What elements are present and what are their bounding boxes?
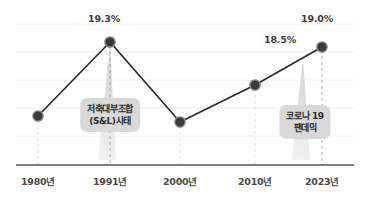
x-tick-2023: 2023년 <box>305 177 339 187</box>
data-point-1980[interactable] <box>33 111 43 121</box>
value-label-18-5: 18.5% <box>264 35 296 45</box>
data-point-1991[interactable] <box>105 37 115 47</box>
value-label-1991: 19.3% <box>88 14 120 24</box>
annotation-snl-line1: 저축대부조합 <box>87 104 133 114</box>
data-point-2000[interactable] <box>175 117 185 127</box>
annotation-covid-line2: 팬데믹 <box>294 123 317 133</box>
data-point-2010[interactable] <box>250 80 260 90</box>
annotation-snl: 저축대부조합 (S&L)사태 <box>80 98 140 132</box>
x-tick-1991: 1991년 <box>93 177 127 187</box>
annotation-covid-line1: 코로나 19 <box>286 111 323 121</box>
data-point-2023[interactable] <box>317 42 327 52</box>
x-tick-2000: 2000년 <box>163 177 197 187</box>
annotation-snl-line2: (S&L)사태 <box>89 116 131 126</box>
value-label-2023: 19.0% <box>301 14 333 24</box>
x-tick-2010: 2010년 <box>238 177 272 187</box>
chart-container: 19.3% 19.0% 18.5% 저축대부조합 (S&L)사태 코로나 19 … <box>0 0 370 201</box>
x-tick-1980: 1980년 <box>21 177 55 187</box>
line-chart-svg <box>0 0 370 201</box>
plot-area: 19.3% 19.0% 18.5% 저축대부조합 (S&L)사태 코로나 19 … <box>0 0 370 201</box>
annotation-covid: 코로나 19 팬데믹 <box>279 105 330 139</box>
